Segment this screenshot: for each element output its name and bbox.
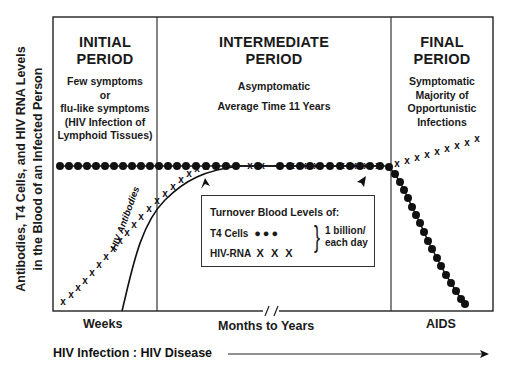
svg-text:x: x <box>60 296 66 307</box>
svg-text:x: x <box>339 160 345 171</box>
svg-text:x: x <box>404 155 410 166</box>
period-final-title: FINAL PERIOD <box>391 34 493 68</box>
legend-row-hiv-rna: HIV-RNA X X X <box>210 247 295 259</box>
period-intermediate-title: INTERMEDIATE PERIOD <box>157 34 391 68</box>
svg-text:x: x <box>414 152 420 163</box>
svg-text:x: x <box>138 211 144 222</box>
svg-text:x: x <box>223 160 229 171</box>
brace-icon: } <box>314 222 320 252</box>
svg-text:x: x <box>351 160 357 171</box>
svg-text:x: x <box>170 181 176 192</box>
period-final: FINAL PERIOD Symptomatic Majority of Opp… <box>391 34 493 129</box>
arrowhead-right-icon <box>357 176 366 187</box>
svg-text:x: x <box>89 267 95 278</box>
svg-text:x: x <box>162 188 168 199</box>
svg-text:x: x <box>247 160 253 171</box>
x-label-months-to-years: Months to Years <box>218 319 314 333</box>
x-label-weeks: Weeks <box>83 317 122 331</box>
svg-text:x: x <box>68 289 74 300</box>
period-initial-description: Few symptoms or flu-like symptoms (HIV I… <box>53 75 157 143</box>
period-initial-title: INITIAL PERIOD <box>53 34 157 68</box>
svg-text:x: x <box>259 160 265 171</box>
svg-text:x: x <box>424 149 430 160</box>
svg-text:x: x <box>313 160 319 171</box>
period-intermediate: INTERMEDIATE PERIOD Asymptomatic Average… <box>157 34 391 114</box>
svg-text:x: x <box>375 160 381 171</box>
svg-text:x: x <box>194 163 200 174</box>
period-final-description: Symptomatic Majority of Opportunistic In… <box>391 75 493 129</box>
legend-box: Turnover Blood Levels of: T4 Cells ●●● H… <box>201 195 375 267</box>
svg-text:x: x <box>154 195 160 206</box>
period-initial: INITIAL PERIOD Few symptoms or flu-like … <box>53 34 157 143</box>
svg-text:x: x <box>327 160 333 171</box>
svg-text:x: x <box>213 160 219 171</box>
period-intermediate-description: Asymptomatic Average Time 11 Years <box>157 78 391 114</box>
svg-text:x: x <box>103 251 109 262</box>
legend-note: 1 billion/ each day <box>325 225 368 249</box>
t4-dot-icon: ●●● <box>254 227 280 239</box>
svg-text:x: x <box>444 143 450 154</box>
t4-dots-declining <box>391 170 469 308</box>
svg-text:x: x <box>363 160 369 171</box>
svg-text:x: x <box>186 168 192 179</box>
svg-text:x: x <box>131 219 137 230</box>
svg-text:x: x <box>82 275 88 286</box>
legend-t4-label: T4 Cells <box>210 228 248 239</box>
svg-text:x: x <box>454 140 460 151</box>
svg-text:x: x <box>96 259 102 270</box>
svg-text:x: x <box>394 158 400 169</box>
svg-text:x: x <box>289 160 295 171</box>
hiv-x-icon: X X X <box>257 247 295 259</box>
svg-text:x: x <box>474 133 480 144</box>
x-axis-title: HIV Infection : HIV Disease <box>53 346 212 360</box>
svg-text:x: x <box>146 203 152 214</box>
svg-text:x: x <box>203 161 209 172</box>
legend-row-t4: T4 Cells ●●● <box>210 227 280 239</box>
arrowhead-left-icon <box>201 178 210 189</box>
svg-text:x: x <box>178 174 184 185</box>
x-label-aids: AIDS <box>426 317 456 331</box>
svg-text:x: x <box>434 146 440 157</box>
legend-header: Turnover Blood Levels of: <box>210 206 339 218</box>
svg-text:x: x <box>301 160 307 171</box>
legend-hiv-label: HIV-RNA <box>210 248 251 259</box>
svg-text:x: x <box>464 137 470 148</box>
svg-text:x: x <box>75 282 81 293</box>
